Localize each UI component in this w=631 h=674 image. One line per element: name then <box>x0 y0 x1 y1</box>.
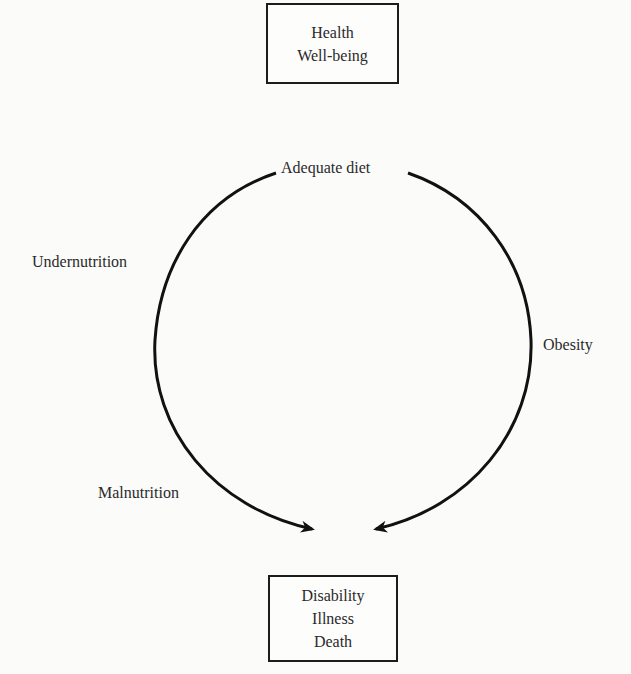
cycle-arrows <box>0 0 631 674</box>
adequate-diet-label: Adequate diet <box>281 159 370 177</box>
undernutrition-label: Undernutrition <box>32 253 127 271</box>
malnutrition-label: Malnutrition <box>98 484 179 502</box>
top-box-line-2: Well-being <box>268 44 397 67</box>
top-box-line-1: Health <box>268 21 397 44</box>
obesity-label: Obesity <box>543 336 593 354</box>
bottom-box-line-2: Illness <box>270 607 396 630</box>
disability-illness-death-box: Disability Illness Death <box>268 575 398 662</box>
left-arc-arrow <box>155 173 312 529</box>
health-wellbeing-box: Health Well-being <box>266 3 399 84</box>
bottom-box-line-3: Death <box>270 630 396 653</box>
bottom-box-line-1: Disability <box>270 584 396 607</box>
right-arc-arrow <box>376 173 531 529</box>
